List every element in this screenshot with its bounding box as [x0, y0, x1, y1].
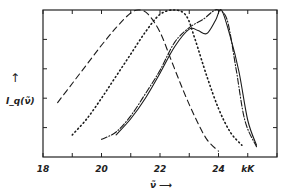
y-axis-arrow: ↑	[10, 71, 20, 85]
x-tick-labels: 18202224kK	[37, 164, 256, 174]
axis-ticks	[43, 10, 277, 157]
x-tick-label: 22	[154, 164, 167, 174]
x-tick-label: kK	[241, 164, 255, 174]
x-axis-label: ν̃ ⟶	[150, 180, 172, 190]
series-line-dashed	[58, 10, 219, 151]
x-tick-label: 24	[212, 164, 225, 174]
plot-frame	[43, 10, 277, 157]
x-tick-label: 18	[37, 164, 50, 174]
data-series	[58, 9, 257, 151]
x-tick-label: 20	[95, 164, 108, 174]
y-axis-label: I_q(ν̃)	[6, 96, 35, 106]
emission-spectrum-chart: 18202224kK ν̃ ⟶ ↑ I_q(ν̃)	[0, 0, 291, 193]
